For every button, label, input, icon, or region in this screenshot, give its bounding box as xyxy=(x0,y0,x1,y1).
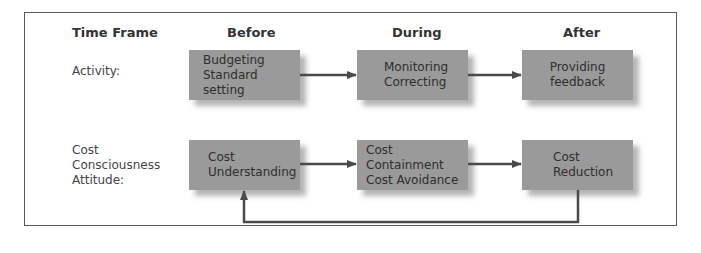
feedback-loop-arrow xyxy=(244,190,578,222)
connector-arrows xyxy=(0,0,701,253)
